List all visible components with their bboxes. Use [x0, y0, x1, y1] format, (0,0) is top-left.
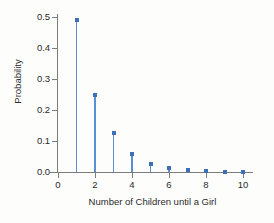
x-tick-label: 6 — [157, 180, 181, 190]
data-point-marker — [130, 152, 134, 156]
x-tick-mark — [58, 173, 59, 178]
data-point-marker — [204, 169, 208, 173]
y-tick-mark — [52, 172, 57, 173]
x-tick-mark — [243, 173, 244, 178]
x-tick-label: 4 — [120, 180, 144, 190]
y-tick-label: 0.5 — [26, 12, 50, 22]
stem-line — [94, 95, 96, 173]
y-tick-label: 0.2 — [26, 105, 50, 115]
x-tick-label: 8 — [194, 180, 218, 190]
x-tick-mark — [169, 173, 170, 178]
y-axis-title: Probability — [12, 42, 23, 122]
x-tick-mark — [132, 173, 133, 178]
stem-line — [76, 20, 78, 172]
x-tick-label: 0 — [46, 180, 70, 190]
y-tick-mark — [52, 79, 57, 80]
data-point-marker — [223, 170, 227, 174]
y-tick-mark — [52, 48, 57, 49]
x-axis-title: Number of Children until a Girl — [50, 196, 255, 207]
data-point-marker — [149, 162, 153, 166]
y-tick-mark — [52, 110, 57, 111]
x-tick-label: 2 — [83, 180, 107, 190]
data-point-marker — [167, 166, 171, 170]
data-point-marker — [93, 93, 97, 97]
y-tick-mark — [52, 141, 57, 142]
stem-line — [113, 133, 115, 172]
y-tick-label: 0.1 — [26, 136, 50, 146]
data-point-marker — [241, 170, 245, 174]
y-tick-label: 0.4 — [26, 43, 50, 53]
stem-line — [131, 154, 133, 172]
y-axis-line — [57, 14, 58, 173]
data-point-marker — [186, 168, 190, 172]
plot-area: 0.00.10.20.30.40.5 0246810 Probability N… — [0, 0, 274, 223]
data-point-marker — [112, 131, 116, 135]
data-point-marker — [75, 18, 79, 22]
y-tick-label: 0.3 — [26, 74, 50, 84]
x-tick-mark — [95, 173, 96, 178]
stem-plot-chart: 0.00.10.20.30.40.5 0246810 Probability N… — [0, 0, 274, 223]
y-tick-mark — [52, 17, 57, 18]
y-tick-label: 0.0 — [26, 167, 50, 177]
x-tick-label: 10 — [231, 180, 255, 190]
x-tick-mark — [206, 173, 207, 178]
